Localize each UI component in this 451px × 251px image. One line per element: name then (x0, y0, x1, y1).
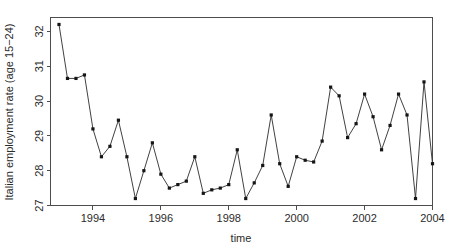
data-point (142, 169, 145, 172)
series-line (59, 24, 433, 198)
data-point (193, 155, 196, 158)
y-tick-label: 30 (33, 95, 45, 107)
data-series (57, 23, 434, 200)
data-point (244, 197, 247, 200)
data-point (338, 94, 341, 97)
data-point (159, 173, 162, 176)
x-tick-label: 2004 (420, 212, 444, 224)
data-point (125, 155, 128, 158)
y-tick-label: 27 (33, 199, 45, 211)
y-tick-label: 28 (33, 165, 45, 177)
data-point (397, 92, 400, 95)
data-point (278, 162, 281, 165)
data-point (287, 185, 290, 188)
data-point (431, 162, 434, 165)
data-point (312, 160, 315, 163)
data-point (236, 148, 239, 151)
data-point (176, 183, 179, 186)
x-tick-label: 2002 (352, 212, 376, 224)
y-tick-label: 31 (33, 60, 45, 72)
y-axis-tick-labels: 272829303132 (33, 25, 45, 211)
data-point (355, 122, 358, 125)
data-point (380, 148, 383, 151)
data-point (57, 23, 60, 26)
axis-tick-marks (47, 31, 433, 209)
data-point (405, 113, 408, 116)
data-point (422, 80, 425, 83)
data-point (304, 159, 307, 162)
data-point (202, 192, 205, 195)
x-tick-label: 1998 (217, 212, 241, 224)
data-point (270, 113, 273, 116)
data-point (108, 145, 111, 148)
data-point (261, 164, 264, 167)
data-point (117, 119, 120, 122)
x-axis-title: time (231, 232, 252, 244)
data-point (253, 181, 256, 184)
data-point (321, 139, 324, 142)
data-point (66, 77, 69, 80)
data-point (134, 197, 137, 200)
data-point (388, 124, 391, 127)
data-point (414, 197, 417, 200)
data-point (185, 180, 188, 183)
x-tick-label: 2000 (284, 212, 308, 224)
x-axis-tick-labels: 199419961998200020022004 (81, 212, 445, 224)
chart-figure: 272829303132 199419961998200020022004 It… (0, 0, 451, 251)
x-tick-label: 1996 (149, 212, 173, 224)
data-point (100, 155, 103, 158)
data-point (371, 115, 374, 118)
data-point (227, 183, 230, 186)
plot-frame (51, 18, 433, 206)
x-tick-label: 1994 (81, 212, 105, 224)
data-point (168, 186, 171, 189)
y-axis-title: Italian employment rate (age 15−24) (3, 23, 15, 200)
data-point (74, 77, 77, 80)
data-point (210, 188, 213, 191)
data-point (346, 136, 349, 139)
timeseries-plot: 272829303132 199419961998200020022004 It… (0, 0, 451, 251)
data-point (295, 155, 298, 158)
y-tick-label: 32 (33, 25, 45, 37)
y-tick-label: 29 (33, 130, 45, 142)
data-point (219, 186, 222, 189)
data-point (83, 73, 86, 76)
data-point (363, 92, 366, 95)
data-point (91, 127, 94, 130)
data-point (329, 86, 332, 89)
data-point (151, 141, 154, 144)
